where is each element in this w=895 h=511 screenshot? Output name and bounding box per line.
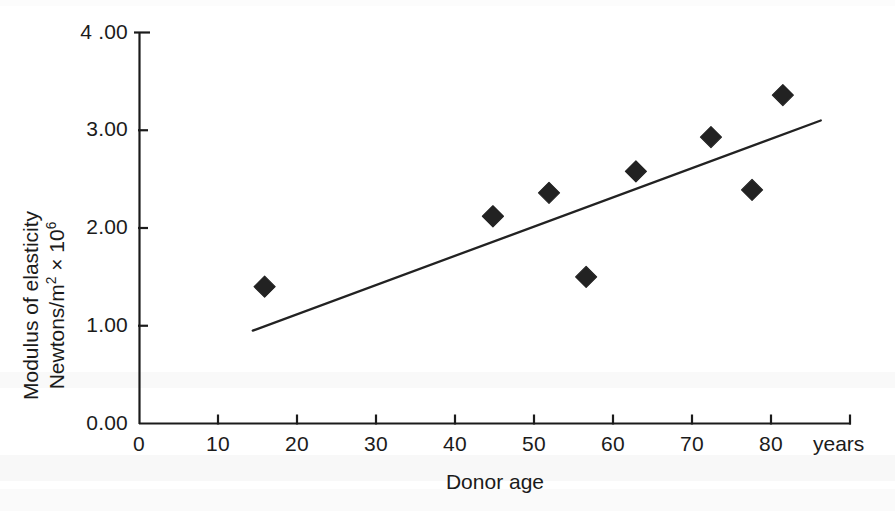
x-tick-label: 30 — [346, 432, 406, 456]
x-tick-label: 20 — [267, 432, 327, 456]
x-tick-label: 10 — [188, 432, 248, 456]
y-axis-title-line2: Newtons/m2 × 106 — [44, 211, 70, 400]
data-point-marker — [742, 179, 763, 200]
data-point-marker — [254, 276, 275, 297]
y-tick-label: 0.00 — [20, 411, 128, 435]
chart-figure: Modulus of elasticity Newtons/m2 × 106 D… — [0, 0, 895, 511]
y-axis-title: Modulus of elasticity Newtons/m2 × 106 — [18, 211, 70, 400]
trend-line-segment — [253, 120, 821, 330]
y-axis-title-line1: Modulus of elasticity — [18, 211, 44, 400]
x-axis-unit-label: years — [813, 432, 864, 456]
y-axis-title-units-prefix: Newtons/m — [45, 284, 68, 389]
y-tick-label: 2.00 — [20, 215, 128, 239]
data-point-marker — [772, 85, 793, 106]
trend-line — [253, 120, 821, 330]
axes — [139, 33, 851, 424]
data-point-marker — [539, 182, 560, 203]
y-tick-label: 3.00 — [20, 117, 128, 141]
x-tick-label: 50 — [504, 432, 564, 456]
data-point-marker — [700, 127, 721, 148]
x-tick-label: 80 — [741, 432, 801, 456]
y-axis-ticks — [134, 33, 150, 326]
data-point-marker — [625, 161, 646, 182]
y-tick-label: 1.00 — [20, 313, 128, 337]
data-point-marker — [482, 206, 503, 227]
x-tick-label: 70 — [662, 432, 722, 456]
x-axis-title: Donor age — [395, 470, 595, 494]
y-axis-title-exponent-m2: 2 — [43, 277, 59, 285]
x-tick-label: 60 — [583, 432, 643, 456]
y-tick-label: 4 .00 — [20, 20, 128, 44]
x-tick-label: 40 — [425, 432, 485, 456]
data-points — [254, 85, 793, 298]
x-tick-label: 0 — [109, 432, 169, 456]
data-point-marker — [576, 266, 597, 287]
